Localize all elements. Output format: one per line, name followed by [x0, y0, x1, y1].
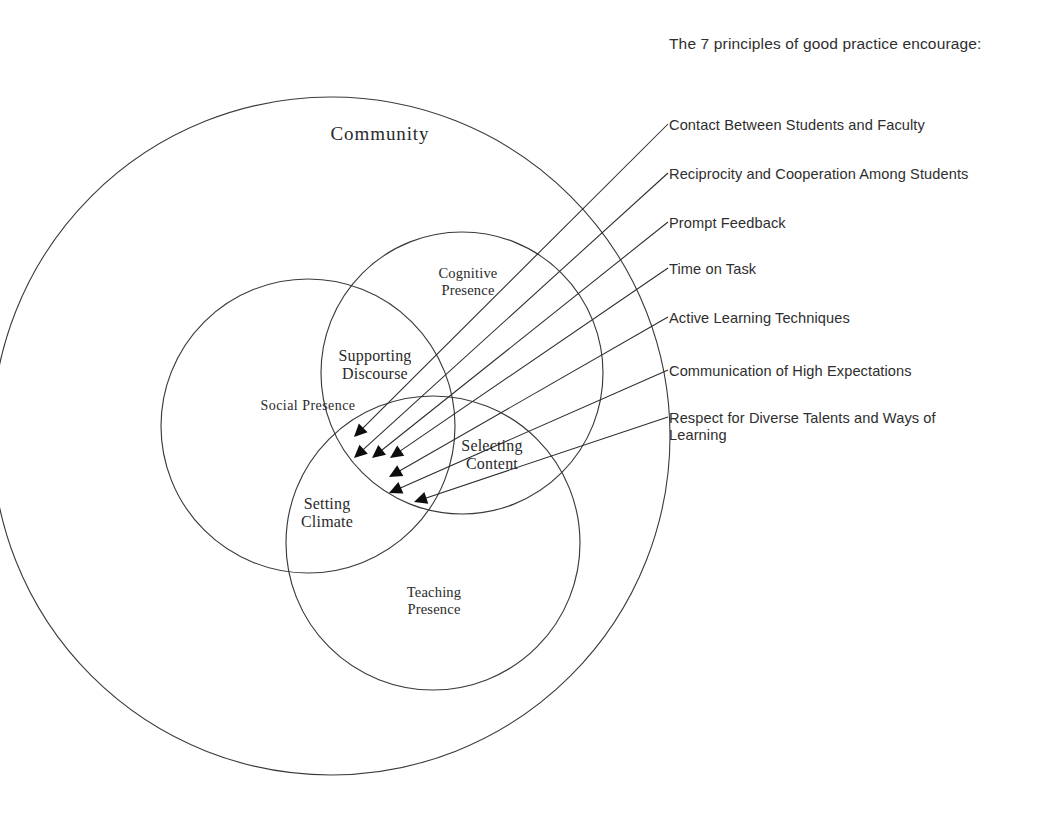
label-supporting-discourse: Supporting Discourse [310, 347, 440, 383]
leader-line-3 [374, 222, 668, 457]
leader-line-2 [355, 173, 668, 457]
label-community: Community [290, 123, 470, 145]
label-setting-climate: Setting Climate [272, 495, 382, 531]
arrow-head-3 [372, 445, 386, 458]
label-cognitive-presence: Cognitive Presence [408, 265, 528, 298]
arrow-head-4 [390, 446, 404, 458]
arrow-head-5 [389, 465, 403, 477]
principles-heading: The 7 principles of good practice encour… [669, 33, 1009, 55]
label-selecting-content: Selecting Content [432, 437, 552, 473]
arrow-head-7 [414, 492, 428, 504]
principle-item[interactable]: Prompt Feedback [669, 215, 1037, 232]
diagram-canvas: Community Social Presence Cognitive Pres… [0, 0, 1059, 816]
label-teaching-presence: Teaching Presence [374, 584, 494, 617]
principle-item[interactable]: Contact Between Students and Faculty [669, 117, 1037, 134]
label-social-presence: Social Presence [228, 398, 388, 414]
principle-item[interactable]: Reciprocity and Cooperation Among Studen… [669, 166, 1037, 183]
principle-item[interactable]: Communication of High Expectations [669, 363, 1037, 380]
principle-item[interactable]: Time on Task [669, 261, 1037, 278]
principle-item[interactable]: Respect for Diverse Talents and Ways of … [669, 410, 1037, 444]
circle-community[interactable] [0, 97, 670, 775]
principle-item[interactable]: Active Learning Techniques [669, 310, 1037, 327]
